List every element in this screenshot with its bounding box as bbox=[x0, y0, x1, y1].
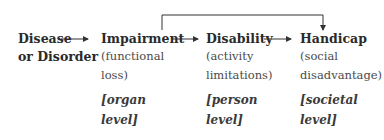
disability-title: Disability bbox=[206, 33, 273, 46]
arrow-impairment-to-handicap bbox=[162, 15, 323, 30]
disability-level-line2: level] bbox=[206, 114, 243, 126]
disease-title-line1: Disease bbox=[18, 33, 72, 46]
disability-desc-line2: limitations) bbox=[206, 70, 272, 82]
impairment-desc-line2: loss) bbox=[101, 70, 128, 82]
impairment-desc-line1: (functional bbox=[101, 51, 164, 63]
impairment-title: Impairment bbox=[101, 33, 184, 46]
handicap-title: Handicap bbox=[300, 33, 367, 46]
disease-title-line2: or Disorder bbox=[18, 51, 98, 64]
handicap-desc-line2: disadvantage) bbox=[300, 70, 382, 82]
disability-level-line1: [person bbox=[206, 94, 258, 106]
impairment-level-line1: [organ bbox=[101, 94, 146, 106]
handicap-level-line1: [societal bbox=[300, 94, 358, 106]
handicap-level-line2: level] bbox=[300, 114, 337, 126]
disability-desc-line1: (activity bbox=[206, 51, 253, 63]
impairment-level-line2: level] bbox=[101, 114, 138, 126]
handicap-desc-line1: (social bbox=[300, 51, 338, 63]
